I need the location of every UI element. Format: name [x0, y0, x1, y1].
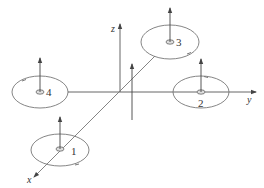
quadrotor-diagram: 4 3 z y x 2 1 [0, 0, 264, 188]
rotor-4: 4 [12, 58, 68, 108]
rotor-label: 4 [46, 86, 52, 98]
axes: z y x [26, 23, 256, 185]
y-axis-label: y [246, 94, 252, 105]
z-axis-label: z [110, 23, 115, 34]
rotor-3: 3 [141, 8, 199, 59]
rotation-arrow-icon [75, 164, 79, 165]
rotor-label: 2 [198, 97, 204, 109]
diagram-svg: 4 3 z y x 2 1 [0, 0, 264, 188]
rotor-1: 1 [31, 117, 89, 166]
x-axis-label: x [26, 174, 32, 185]
rotor-2: 2 [173, 59, 229, 109]
rotor-label: 1 [71, 145, 77, 157]
rotor-label: 3 [176, 36, 182, 48]
x-axis [34, 56, 155, 177]
